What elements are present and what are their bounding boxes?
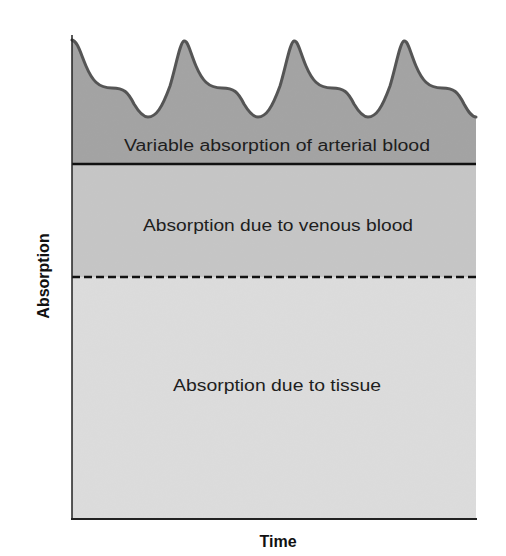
y-axis-label: Absorption <box>35 233 52 318</box>
arterial-band-label: Variable absorption of arterial blood <box>124 137 430 154</box>
absorption-diagram: Variable absorption of arterial blood Ab… <box>0 0 506 556</box>
tissue-band-label: Absorption due to tissue <box>173 377 381 394</box>
tissue-band <box>72 277 476 519</box>
venous-band-label: Absorption due to venous blood <box>143 217 413 234</box>
x-axis-label: Time <box>259 533 296 550</box>
